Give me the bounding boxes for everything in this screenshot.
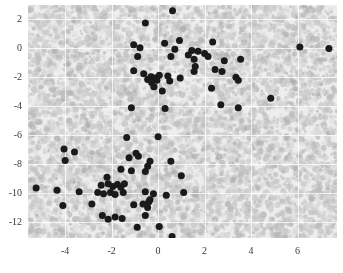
- data-point: [217, 101, 224, 108]
- data-point: [120, 189, 127, 196]
- data-point: [128, 104, 135, 111]
- x-tick-label: -2: [97, 246, 127, 256]
- data-point: [142, 188, 149, 195]
- data-point: [136, 44, 143, 51]
- data-point: [126, 154, 133, 161]
- data-point: [235, 104, 242, 111]
- data-point: [235, 77, 242, 84]
- data-point: [133, 150, 140, 157]
- data-point: [88, 200, 95, 207]
- series-cluster-upper: [128, 7, 332, 112]
- scatter-plot-figure: 20-2-4-6-8-10-12 -4-20246: [0, 0, 343, 273]
- plot-area: [28, 5, 337, 238]
- series-cluster-lower: [33, 133, 188, 238]
- data-point: [166, 77, 173, 84]
- data-point: [117, 166, 124, 173]
- y-tick-label: -6: [0, 130, 22, 140]
- data-point: [134, 224, 141, 231]
- data-point: [105, 216, 112, 223]
- x-tick-label: 6: [283, 246, 313, 256]
- data-point: [99, 212, 106, 219]
- data-point: [205, 53, 212, 60]
- data-point: [61, 146, 68, 153]
- data-point: [150, 83, 157, 90]
- data-point: [144, 163, 151, 170]
- data-point: [128, 167, 135, 174]
- data-point: [176, 37, 183, 44]
- data-point: [62, 157, 69, 164]
- data-point: [76, 188, 83, 195]
- data-point: [161, 40, 168, 47]
- data-point: [100, 190, 107, 197]
- data-point: [267, 95, 274, 102]
- data-point: [167, 53, 174, 60]
- data-point: [212, 66, 219, 73]
- data-point: [162, 105, 169, 112]
- y-tick-label: -4: [0, 101, 22, 111]
- data-points-layer: [28, 5, 337, 238]
- data-point: [171, 46, 178, 53]
- data-point: [123, 134, 130, 141]
- y-tick-label: -12: [0, 217, 22, 227]
- data-point: [71, 148, 78, 155]
- data-point: [209, 38, 216, 45]
- data-point: [59, 202, 66, 209]
- data-point: [191, 56, 198, 63]
- data-point: [237, 56, 244, 63]
- data-point: [167, 158, 174, 165]
- data-point: [142, 212, 149, 219]
- data-point: [94, 189, 101, 196]
- y-tick-label: -10: [0, 188, 22, 198]
- data-point: [191, 68, 198, 75]
- y-tick-label: 0: [0, 43, 22, 53]
- data-point: [325, 45, 332, 52]
- data-point: [134, 53, 141, 60]
- data-point: [119, 215, 126, 222]
- data-point: [144, 204, 151, 211]
- x-tick-label: -4: [50, 246, 80, 256]
- data-point: [145, 198, 152, 205]
- y-tick-label: -8: [0, 159, 22, 169]
- data-point: [103, 174, 110, 181]
- data-point: [54, 187, 61, 194]
- data-point: [142, 20, 149, 27]
- data-point: [169, 233, 176, 238]
- data-point: [130, 41, 137, 48]
- data-point: [156, 223, 163, 230]
- data-point: [185, 51, 192, 58]
- data-point: [112, 214, 119, 221]
- y-tick-label: 2: [0, 14, 22, 24]
- data-point: [155, 133, 162, 140]
- data-point: [33, 185, 40, 192]
- data-point: [221, 57, 228, 64]
- data-point: [177, 75, 184, 82]
- data-point: [98, 182, 105, 189]
- data-point: [296, 43, 303, 50]
- data-point: [159, 88, 166, 95]
- data-point: [163, 192, 170, 199]
- data-point: [130, 67, 137, 74]
- data-point: [169, 7, 176, 14]
- data-point: [140, 70, 147, 77]
- y-tick-label: -2: [0, 72, 22, 82]
- x-tick-label: 0: [143, 246, 173, 256]
- x-tick-label: 2: [190, 246, 220, 256]
- data-point: [180, 189, 187, 196]
- x-tick-label: 4: [236, 246, 266, 256]
- data-point: [219, 68, 226, 75]
- data-point: [130, 201, 137, 208]
- data-point: [178, 172, 185, 179]
- data-point: [121, 180, 128, 187]
- data-point: [112, 191, 119, 198]
- data-point: [195, 48, 202, 55]
- data-point: [208, 85, 215, 92]
